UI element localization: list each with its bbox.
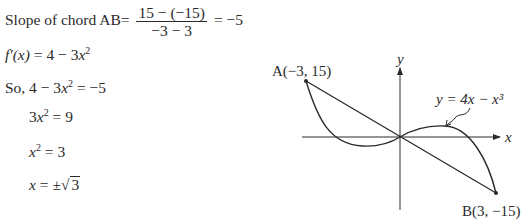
- point-b: [494, 191, 498, 195]
- point-a: [304, 79, 308, 83]
- curve-label: y = 4x − x³: [434, 91, 504, 107]
- x-axis-label: x: [504, 129, 512, 145]
- curve-pointer: [447, 108, 470, 125]
- point-b-label: B(3, −15): [462, 203, 520, 220]
- point-a-label: A(−3, 15): [272, 63, 331, 80]
- y-axis-label: y: [395, 51, 404, 67]
- cubic-graph: A(−3, 15) B(3, −15) y = 4x − x³ x y: [0, 0, 530, 221]
